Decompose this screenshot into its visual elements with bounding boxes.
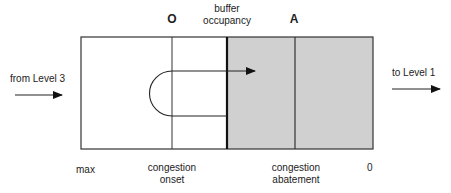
congestion-abatement-label: congestion abatement (266, 162, 326, 186)
buffer-occupancy-label: buffer occupancy (197, 3, 257, 27)
shaded-occupancy-region (227, 37, 373, 149)
buffer-occupancy-line2: occupancy (197, 15, 257, 27)
congestion-onset-line1: congestion (142, 162, 202, 174)
buffer-occupancy-line1: buffer (197, 3, 257, 15)
congestion-abatement-line2: abatement (266, 174, 326, 186)
zero-label: 0 (367, 162, 373, 174)
onset-marker-label: O (165, 13, 179, 25)
abatement-marker-label: A (287, 13, 301, 25)
congestion-abatement-line1: congestion (266, 162, 326, 174)
max-label: max (76, 164, 95, 176)
input-label: from Level 3 (10, 73, 65, 85)
congestion-onset-line2: onset (142, 174, 202, 186)
buffer-diagram (0, 0, 451, 193)
congestion-onset-label: congestion onset (142, 162, 202, 186)
output-label: to Level 1 (392, 67, 435, 79)
